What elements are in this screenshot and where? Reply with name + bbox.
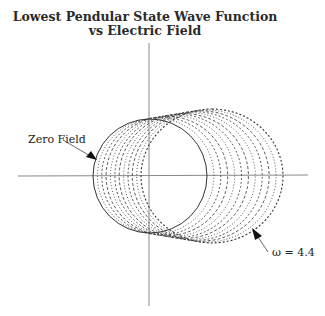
omega-arrowhead-icon bbox=[252, 228, 262, 240]
x-axis bbox=[18, 175, 308, 176]
omega-label: ω = 4.4 bbox=[272, 246, 315, 259]
plot-area: Zero Field ω = 4.4 bbox=[0, 0, 325, 316]
zero-field-label: Zero Field bbox=[28, 133, 86, 146]
zero-field-arrowhead-icon bbox=[86, 151, 97, 160]
